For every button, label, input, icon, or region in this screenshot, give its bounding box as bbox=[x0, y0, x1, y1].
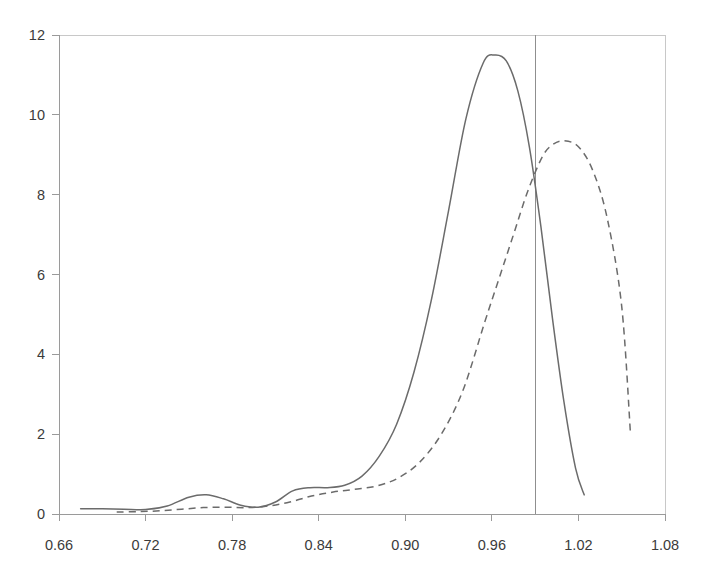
x-tick-label: 0.96 bbox=[478, 537, 506, 553]
density-plot-svg: 024681012 0.660.720.780.840.900.961.021.… bbox=[0, 0, 703, 586]
x-axis-ticks: 0.660.720.780.840.900.961.021.08 bbox=[45, 514, 679, 553]
x-tick-label: 0.66 bbox=[45, 537, 73, 553]
y-tick-label: 8 bbox=[37, 187, 45, 203]
x-tick-label: 0.78 bbox=[218, 537, 246, 553]
y-axis-ticks: 024681012 bbox=[29, 27, 59, 522]
x-tick-label: 0.84 bbox=[305, 537, 333, 553]
x-tick-label: 0.90 bbox=[391, 537, 419, 553]
series-line-solid-density bbox=[81, 55, 585, 510]
chart-container: 024681012 0.660.720.780.840.900.961.021.… bbox=[0, 0, 703, 586]
plot-frame bbox=[59, 35, 665, 514]
y-tick-label: 4 bbox=[37, 346, 45, 362]
y-tick-label: 10 bbox=[29, 107, 45, 123]
chart-series bbox=[81, 55, 631, 512]
x-tick-label: 1.02 bbox=[564, 537, 592, 553]
y-tick-label: 2 bbox=[37, 426, 45, 442]
y-tick-label: 0 bbox=[37, 506, 45, 522]
x-tick-label: 1.08 bbox=[651, 537, 679, 553]
x-tick-label: 0.72 bbox=[131, 537, 159, 553]
y-tick-label: 12 bbox=[29, 27, 45, 43]
y-tick-label: 6 bbox=[37, 267, 45, 283]
